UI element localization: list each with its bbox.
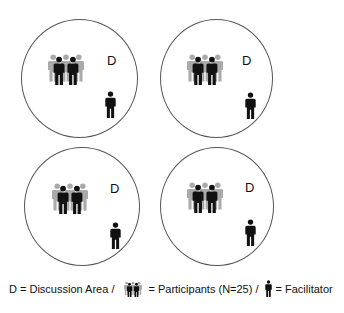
participants-group-icon-2 — [186, 53, 224, 85]
participants-group-icon-1 — [47, 53, 85, 85]
legend-participants-text: = Participants (N=25) / — [148, 283, 258, 295]
discussion-area-label-3: D — [110, 181, 119, 196]
discussion-area-label-1: D — [107, 53, 116, 68]
discussion-area-label-4: D — [245, 180, 254, 195]
participants-group-icon-3 — [51, 182, 89, 214]
discussion-area-label-2: D — [242, 53, 251, 68]
legend-participants-icon — [124, 281, 142, 297]
legend: D = Discussion Area / = Participants (N=… — [9, 280, 333, 297]
legend-facilitator-text: = Facilitator — [276, 283, 333, 295]
legend-facilitator-icon — [265, 280, 272, 297]
legend-discussion-text: D = Discussion Area / — [9, 283, 114, 295]
facilitator-icon-3 — [110, 222, 121, 249]
facilitator-icon-1 — [105, 91, 116, 118]
facilitator-icon-2 — [245, 92, 256, 119]
facilitator-icon-4 — [245, 219, 256, 246]
participants-group-icon-4 — [186, 181, 224, 213]
